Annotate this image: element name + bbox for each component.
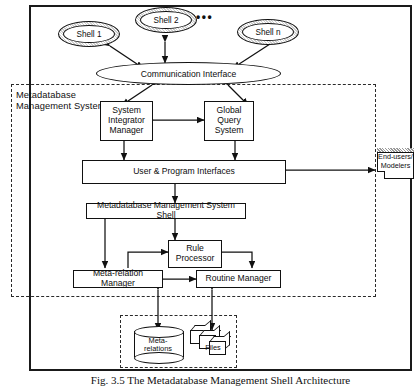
shell-1-node[interactable]: Shell 1 [58,21,120,47]
system-integrator-manager-label: System Integrator Manager [102,106,151,135]
shell-1-label: Shell 1 [76,30,101,39]
end-users-document-fold-icon [377,171,385,179]
global-query-system-label: Global Query System [206,106,252,135]
figure-caption: Fig. 3.5 The Metadatabase Management She… [29,374,412,386]
meta-relations-label-line2: relations [134,345,182,353]
shell-n-node[interactable]: Shell n [237,19,299,45]
communication-interface-label: Communication Interface [141,69,237,79]
meta-relations-datastore[interactable]: Meta- relations [134,326,182,362]
metadatabase-management-system-shell-node[interactable]: Metadatabase Management System Shell [86,203,246,219]
metadatabase-management-system-shell-label: Metadatabase Management System Shell [88,201,244,221]
shell-2-node[interactable]: Shell 2 [135,7,197,33]
meta-relation-manager-label: Meta-relation Manager [75,269,161,289]
routine-manager-label: Routine Manager [206,274,272,284]
files-label: Files [190,343,236,352]
system-integrator-manager-node[interactable]: System Integrator Manager [100,101,153,141]
end-users-label-line2: Modelers [377,162,414,171]
global-query-system-node[interactable]: Global Query System [204,101,254,141]
figure-canvas: Metadatabase Management System [0,0,420,389]
end-users-modelers-node[interactable]: End-users/ Modelers [377,148,414,179]
shell-ellipsis: ••• [196,12,213,22]
shell-2-label: Shell 2 [153,16,178,25]
routine-manager-node[interactable]: Routine Manager [196,270,281,288]
rule-processor-node[interactable]: Rule Processor [168,240,222,268]
meta-relation-manager-node[interactable]: Meta-relation Manager [73,270,163,288]
communication-interface-node[interactable]: Communication Interface [96,62,281,85]
user-program-interfaces-node[interactable]: User & Program Interfaces [82,160,286,184]
user-program-interfaces-label: User & Program Interfaces [133,167,235,177]
rule-processor-label: Rule Processor [170,244,220,264]
shell-n-label: Shell n [255,28,280,37]
metadatabase-management-system-label: Metadatabase Management System [16,90,108,113]
files-datastore[interactable]: Files [190,325,236,361]
